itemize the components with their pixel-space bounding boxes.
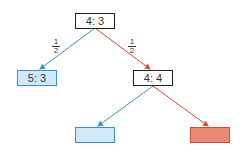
- edge-right-right: [153, 86, 208, 126]
- node-right-left: [75, 127, 115, 143]
- prob-label-right: 1 2: [128, 38, 136, 55]
- edge-root-left: [40, 28, 95, 69]
- prob-denominator: 2: [128, 47, 136, 55]
- prob-label-left: 1 2: [52, 38, 60, 55]
- node-left: 5: 3: [17, 70, 57, 86]
- node-root: 4: 3: [75, 13, 115, 29]
- node-right: 4: 4: [133, 70, 173, 86]
- edge-root-right: [95, 28, 150, 69]
- prob-denominator: 2: [52, 47, 60, 55]
- node-right-right: [190, 127, 230, 143]
- edge-right-left: [98, 86, 153, 126]
